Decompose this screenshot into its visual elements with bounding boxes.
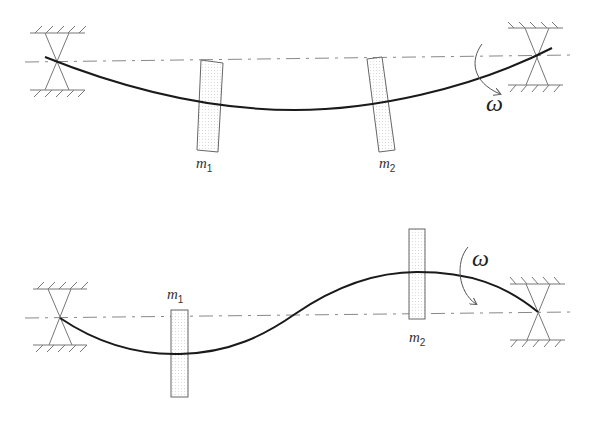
mass-label-m2: m2 <box>379 155 395 174</box>
rotor-diagram <box>0 0 593 424</box>
disk-m2 <box>409 229 425 319</box>
mass-label-m1: m1 <box>196 155 212 174</box>
second-mode-diagram <box>25 229 572 397</box>
mass-symbol: m <box>409 329 420 345</box>
angular-velocity-label: ω <box>486 90 503 117</box>
mass-symbol: m <box>379 155 390 171</box>
mass-subscript: 1 <box>178 294 184 305</box>
mass-symbol: m <box>167 286 178 302</box>
mass-subscript: 2 <box>390 163 396 174</box>
left-bearing-support <box>33 282 88 352</box>
mass-subscript: 1 <box>207 163 213 174</box>
mass-label-m1: m1 <box>167 286 183 305</box>
centerline-axis <box>25 312 572 318</box>
mass-symbol: m <box>196 155 207 171</box>
mass-subscript: 2 <box>420 337 426 348</box>
rotation-arrow-icon <box>475 44 500 94</box>
first-mode-diagram <box>25 22 572 152</box>
angular-velocity-label: ω <box>472 245 489 272</box>
centerline-axis <box>25 55 572 62</box>
disk-m1 <box>197 60 223 152</box>
mass-label-m2: m2 <box>409 329 425 348</box>
